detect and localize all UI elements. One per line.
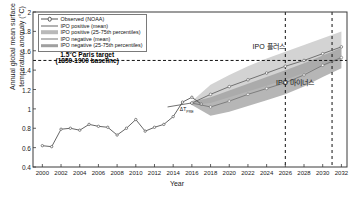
ipo-positive-mean-line-point (321, 52, 324, 55)
legend-label: Observed (NOAA) (61, 16, 105, 23)
ipo-positive-annotation: IPO 플러스 (253, 41, 285, 51)
ipo-positive-mean-line-point (303, 59, 306, 62)
legend-band-swatch (41, 31, 58, 35)
ipo-positive-mean-line-point (247, 79, 250, 82)
observed-noaa-line-point (163, 123, 165, 125)
legend-label: IPO negative (mean) (61, 36, 111, 43)
observed-noaa-line-point (107, 126, 109, 128)
observed-noaa-line-point (60, 128, 62, 130)
observed-noaa-line-point (97, 125, 99, 127)
observed-noaa-line-point (69, 127, 71, 129)
observed-noaa-line-point (125, 127, 127, 129)
ipo-negative-mean-line-point (228, 100, 231, 103)
legend-swatch-icon (41, 43, 58, 49)
legend-label: IPO positive (mean) (61, 23, 109, 30)
ipo-negative-mean-line-point (321, 64, 324, 67)
legend-marker-icon (47, 17, 52, 22)
observed-noaa-line-point (50, 145, 52, 147)
observed-noaa-line-point (191, 96, 193, 98)
legend-item: IPO negative (25-75th percentiles) (41, 42, 143, 49)
legend-swatch-icon (41, 29, 58, 35)
chart-legend: Observed (NOAA)IPO positive (mean)IPO po… (38, 14, 147, 52)
observed-noaa-line-point (135, 118, 137, 120)
observed-noaa-line-point (181, 101, 183, 103)
observed-noaa-line-point (144, 130, 146, 132)
legend-band-swatch (41, 44, 58, 48)
legend-item: IPO positive (mean) (41, 23, 143, 30)
legend-item: IPO negative (mean) (41, 36, 143, 43)
legend-item: Observed (NOAA) (41, 16, 143, 23)
paris-target-annotation-line2: (1850-1900 baseline) (56, 56, 119, 65)
ipo-negative-mean-line-point (265, 87, 268, 90)
delta-t-subscript: PRE (186, 110, 193, 114)
legend-line-swatch (41, 25, 58, 26)
ipo-negative-annotation: IPO 마이너스 (276, 77, 314, 87)
legend-line-swatch (41, 39, 58, 40)
ipo-positive-mean-line-point (340, 46, 343, 49)
observed-noaa-line (42, 97, 201, 146)
observed-noaa-line-point (172, 115, 174, 117)
legend-label: IPO negative (25-75th percentiles) (61, 42, 143, 49)
observed-noaa-line-point (200, 103, 202, 105)
ipo-positive-mean-line-point (209, 93, 212, 96)
legend-swatch-icon (41, 23, 58, 29)
ipo-positive-mean-line-point (228, 85, 231, 88)
observed-noaa-line-point (88, 123, 90, 125)
ipo-negative-mean-line-point (191, 102, 194, 105)
ipo-negative-mean-line-point (209, 106, 212, 109)
observed-noaa-line-point (116, 134, 118, 136)
delta-t-annotation: ΔTPRE (180, 106, 194, 114)
observed-noaa-line-point (41, 144, 43, 146)
legend-item: IPO positive (25-75th percentiles) (41, 29, 143, 36)
ipo-positive-mean-line-point (265, 72, 268, 75)
observed-noaa-line-point (79, 129, 81, 131)
ipo-negative-mean-line-point (340, 56, 343, 59)
legend-label: IPO positive (25-75th percentiles) (61, 29, 141, 36)
legend-swatch-icon (41, 16, 58, 22)
ipo-negative-mean-line-point (247, 93, 250, 96)
chart-figure: 21.81.61.41.210.80.60.4 2000200220042006… (0, 0, 354, 201)
ipo-positive-mean-line-point (284, 65, 287, 68)
observed-noaa-line-point (153, 126, 155, 128)
legend-swatch-icon (41, 36, 58, 42)
